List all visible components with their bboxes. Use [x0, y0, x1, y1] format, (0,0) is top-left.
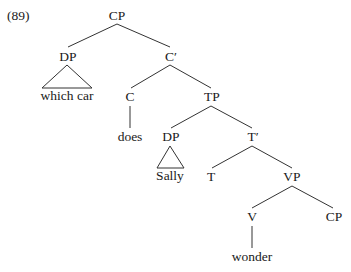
leaf-does: does [118, 130, 143, 144]
edge-tbar-vp [252, 146, 292, 168]
node-tp: TP [204, 90, 220, 104]
edge-tbar-t [212, 146, 252, 168]
edge-tp-tbar [211, 106, 252, 128]
leaf-which-car: which car [41, 89, 94, 103]
node-vp: VP [283, 170, 300, 184]
node-dp-subj: DP [162, 130, 179, 144]
node-t-head: T [207, 170, 215, 184]
node-cp-comp: CP [326, 210, 343, 224]
leaf-wonder: wonder [232, 250, 273, 264]
edge-cbar-c [131, 65, 170, 88]
triangle-sally [157, 146, 184, 168]
node-cp-root: CP [109, 9, 126, 23]
node-dp-spec: DP [59, 50, 76, 64]
edge-vp-v [252, 186, 292, 208]
node-t-bar: T′ [247, 130, 258, 144]
node-c-head: C [125, 90, 134, 104]
edge-cp-cbar [117, 24, 170, 47]
triangle-which-car [42, 65, 92, 88]
edge-cbar-tp [170, 65, 211, 88]
node-c-bar: C′ [165, 50, 177, 64]
edge-cp-dp [68, 24, 117, 47]
edge-tp-dp [171, 106, 211, 128]
node-v-head: V [247, 210, 257, 224]
leaf-sally: Sally [156, 169, 184, 183]
edge-vp-cp [292, 186, 333, 208]
